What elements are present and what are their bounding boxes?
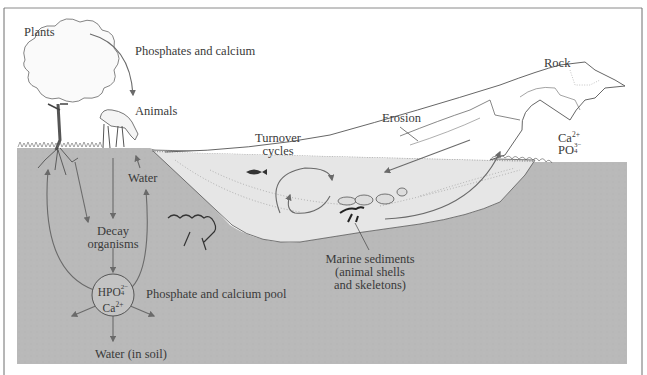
label-water-in-soil: Water (in soil) xyxy=(95,348,167,361)
label-plants: Plants xyxy=(24,26,55,39)
label-decay-organisms: Decay organisms xyxy=(82,225,144,251)
label-animals: Animals xyxy=(135,105,177,118)
label-phosphates-calcium: Phosphates and calcium xyxy=(135,45,255,58)
label-turnover-cycles: Turnover cycles xyxy=(248,132,308,158)
label-erosion: Erosion xyxy=(382,112,421,125)
label-phosphate-calcium-pool: Phosphate and calcium pool xyxy=(146,288,287,301)
label-water: Water xyxy=(128,172,158,185)
label-marine-sediments: Marine sediments (animal shells and skel… xyxy=(320,253,420,292)
label-rock-phosphate-ion: PO3−4 xyxy=(558,142,581,157)
grazing-animal xyxy=(100,110,138,148)
phosphorus-calcium-cycle-diagram: Plants Phosphates and calcium Animals Wa… xyxy=(0,0,647,375)
label-pool-phosphate-ion: HPO2−4 xyxy=(93,284,133,299)
label-pool-calcium-ion: Ca2+ xyxy=(93,298,133,315)
label-rock: Rock xyxy=(544,57,570,70)
